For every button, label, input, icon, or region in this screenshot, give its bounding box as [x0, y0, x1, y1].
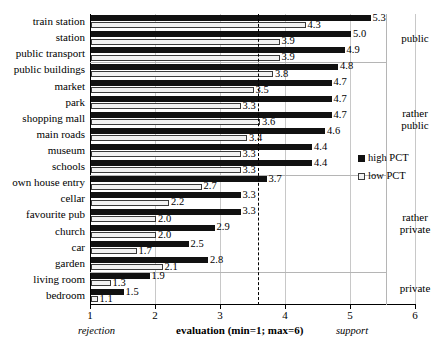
- bar-value-label: 3.6: [262, 117, 275, 128]
- bar-value-label: 2.8: [210, 255, 223, 266]
- bar-value-label: 2.9: [217, 222, 230, 233]
- bar-high-pct: [91, 160, 312, 166]
- group-label: ratherprivate: [386, 211, 444, 235]
- group-label: private: [386, 282, 444, 294]
- category-label: bedroom: [0, 290, 85, 301]
- bar-value-label: 5.3: [373, 13, 386, 24]
- bar-value-label: 3.8: [275, 69, 288, 80]
- group-label-line: rather: [386, 211, 444, 223]
- category-label: main roads: [0, 129, 85, 140]
- axis-title: evaluation (min=1; max=6): [176, 324, 303, 336]
- gridline: [415, 14, 416, 304]
- bar-value-label: 1.5: [126, 287, 139, 298]
- category-label: garden: [0, 258, 85, 269]
- bar-value-label: 2.0: [158, 214, 171, 225]
- bar-high-pct: [91, 112, 332, 118]
- x-tick-label: 1: [80, 309, 100, 321]
- bar-value-label: 1.7: [139, 246, 152, 257]
- x-tick-label: 5: [340, 309, 360, 321]
- bar-value-label: 4.8: [340, 61, 353, 72]
- group-label-line: private: [386, 282, 444, 294]
- bar-high-pct: [91, 225, 215, 231]
- bar-value-label: 1.1: [100, 294, 113, 305]
- category-label: station: [0, 32, 85, 43]
- bar-low-pct: [91, 167, 241, 173]
- category-label: museum: [0, 145, 85, 156]
- category-label: market: [0, 81, 85, 92]
- category-label: schools: [0, 161, 85, 172]
- bar-value-label: 1.9: [152, 271, 165, 282]
- x-tick-label: 3: [210, 309, 230, 321]
- category-label: public transport: [0, 48, 85, 59]
- category-label: own house entry: [0, 177, 85, 188]
- bar-value-label: 4.7: [334, 94, 347, 105]
- bar-low-pct: [91, 135, 247, 141]
- category-label: train station: [0, 16, 85, 27]
- bar-value-label: 4.7: [334, 77, 347, 88]
- bar-low-pct: [91, 216, 156, 222]
- bar-value-label: 4.7: [334, 110, 347, 121]
- bar-low-pct: [91, 55, 280, 61]
- bar-value-label: 2.1: [165, 262, 178, 273]
- bar-low-pct: [91, 22, 306, 28]
- bar-value-label: 4.4: [314, 142, 327, 153]
- bar-high-pct: [91, 96, 332, 102]
- group-label-line: private: [386, 223, 444, 235]
- bar-value-label: 3.7: [269, 174, 282, 185]
- group-label-line: public: [386, 119, 444, 131]
- bar-value-label: 2.7: [204, 181, 217, 192]
- axis-caption-rejection: rejection: [78, 325, 115, 336]
- gridline: [350, 14, 351, 304]
- bar-value-label: 3.3: [243, 206, 256, 217]
- bar-value-label: 2.5: [191, 239, 204, 250]
- x-tick-label: 6: [405, 309, 425, 321]
- bar-low-pct: [91, 232, 156, 238]
- bar-value-label: 3.9: [282, 36, 295, 47]
- bar-low-pct: [91, 39, 280, 45]
- legend-swatch-high-pct: [358, 155, 365, 162]
- category-label: park: [0, 97, 85, 108]
- bar-low-pct: [91, 296, 98, 302]
- legend-item: high PCT: [358, 152, 409, 164]
- legend-label: low PCT: [368, 170, 406, 181]
- bar-high-pct: [91, 257, 208, 263]
- bar-high-pct: [91, 31, 351, 37]
- bar-low-pct: [91, 280, 111, 286]
- x-tick-label: 4: [275, 309, 295, 321]
- reference-line: [258, 14, 259, 305]
- category-label: public buildings: [0, 64, 85, 75]
- bar-low-pct: [91, 119, 260, 125]
- bar-high-pct: [91, 64, 338, 70]
- bar-chart: 123456 train station5.34.3station5.03.9p…: [0, 0, 444, 355]
- category-label: shopping mall: [0, 113, 85, 124]
- x-tick-label: 2: [145, 309, 165, 321]
- bar-low-pct: [91, 87, 254, 93]
- bar-value-label: 3.3: [243, 190, 256, 201]
- legend-item: low PCT: [358, 170, 406, 182]
- bar-value-label: 3.9: [282, 52, 295, 63]
- bar-value-label: 2.2: [171, 197, 184, 208]
- bar-low-pct: [91, 151, 241, 157]
- bar-value-label: 2.0: [158, 230, 171, 241]
- bar-value-label: 3.3: [243, 165, 256, 176]
- bar-high-pct: [91, 15, 371, 21]
- category-label: living room: [0, 274, 85, 285]
- group-label-line: public: [386, 32, 444, 44]
- bar-high-pct: [91, 192, 241, 198]
- bar-value-label: 4.6: [327, 126, 340, 137]
- category-label: car: [0, 242, 85, 253]
- bar-high-pct: [91, 176, 267, 182]
- bar-low-pct: [91, 71, 273, 77]
- bar-high-pct: [91, 144, 312, 150]
- bar-value-label: 5.0: [353, 29, 366, 40]
- category-label: church: [0, 226, 85, 237]
- category-label: favourite pub: [0, 209, 85, 220]
- bar-value-label: 4.3: [308, 20, 321, 31]
- category-label: cellar: [0, 193, 85, 204]
- bar-low-pct: [91, 248, 137, 254]
- bar-value-label: 3.3: [243, 149, 256, 160]
- bar-low-pct: [91, 103, 241, 109]
- bar-value-label: 4.4: [314, 158, 327, 169]
- x-axis-line: [90, 304, 416, 305]
- bar-value-label: 1.3: [113, 278, 126, 289]
